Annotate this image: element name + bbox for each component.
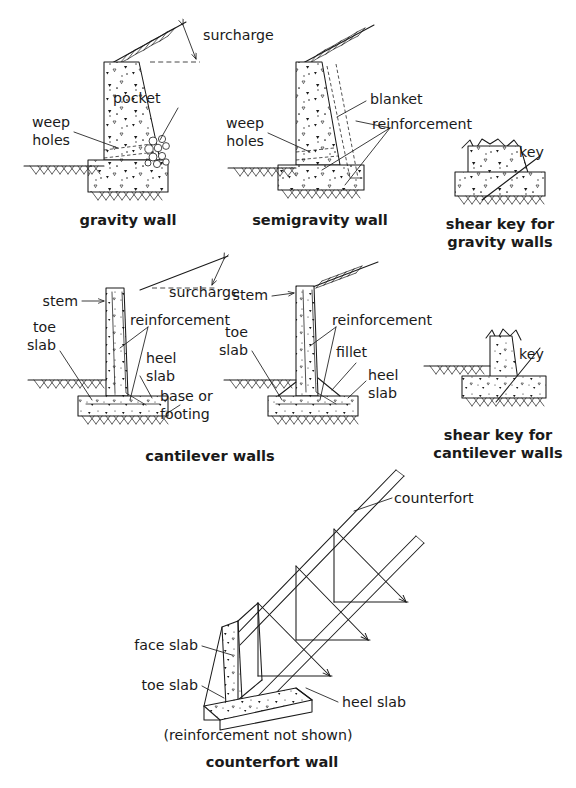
label-counterfort: counterfort [394, 490, 474, 506]
label-blanket: blanket [370, 91, 423, 107]
label-fillet: fillet [336, 344, 368, 360]
label-toe-slab-counterfort: toe slab [141, 677, 198, 693]
label-weep-gravity-line2: holes [32, 132, 70, 148]
retaining-wall-types-figure: surcharge [0, 0, 576, 788]
label-stem-left: stem [42, 293, 78, 309]
label-toe-left-line1: toe [33, 319, 56, 335]
label-heel-right-line1: heel [368, 367, 398, 383]
label-base-line2: footing [160, 406, 210, 422]
label-heel-left-line2: slab [146, 368, 175, 384]
label-weep-semigravity-line1: weep [226, 115, 264, 131]
figure-canvas: surcharge [0, 0, 576, 788]
caption-shear-key-cantilever-line1: shear key for [444, 426, 553, 443]
label-heel-left-line1: heel [146, 350, 176, 366]
label-weep-gravity-line1: weep [32, 114, 70, 130]
label-reinforcement-cantilever-left: reinforcement [130, 312, 230, 328]
caption-shear-key-gravity-line2: gravity walls [447, 233, 553, 250]
label-toe-right-line1: toe [225, 324, 248, 340]
note-reinforcement-not-shown: (reinforcement not shown) [164, 727, 353, 743]
label-heel-slab-counterfort: heel slab [342, 694, 406, 710]
cantilever-right-stem [296, 286, 318, 396]
label-toe-right-line2: slab [219, 342, 248, 358]
label-reinforcement-semigravity: reinforcement [372, 116, 472, 132]
label-weep-semigravity-line2: holes [226, 133, 264, 149]
label-heel-right-line2: slab [368, 385, 397, 401]
label-toe-left-line2: slab [27, 337, 56, 353]
counterfort-face-slab [222, 621, 242, 706]
caption-gravity-wall: gravity wall [80, 211, 177, 228]
cantilever-left-stem [106, 288, 128, 396]
label-reinforcement-cantilever-right: reinforcement [332, 312, 432, 328]
label-key-cantilever: key [519, 346, 544, 362]
label-pocket: pocket [113, 90, 161, 106]
caption-cantilever-walls: cantilever walls [145, 447, 274, 464]
label-base-line1: base or [160, 388, 213, 404]
caption-shear-key-gravity-line1: shear key for [446, 215, 555, 232]
caption-semigravity-wall: semigravity wall [252, 211, 388, 228]
caption-counterfort-wall: counterfort wall [206, 753, 339, 770]
label-surcharge-gravity: surcharge [203, 27, 274, 43]
caption-shear-key-cantilever-line2: cantilever walls [433, 444, 562, 461]
label-key-gravity: key [519, 144, 544, 160]
label-face-slab: face slab [134, 637, 198, 653]
label-stem-right: stem [232, 287, 268, 303]
label-surcharge-cantilever: surcharge [169, 284, 240, 300]
